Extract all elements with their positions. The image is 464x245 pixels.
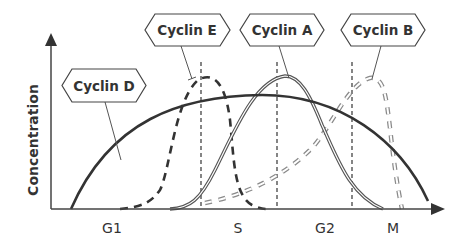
leader-cyclin-e: [181, 46, 196, 80]
cyclin-e-curve: [120, 77, 266, 209]
axes: [45, 33, 445, 215]
y-axis-label: Concentration: [25, 84, 41, 196]
cyclin-diagram: Concentration G1 S G2 M Cyclin D Cyclin …: [0, 0, 464, 245]
label-cyclin-e-text: Cyclin E: [157, 22, 217, 38]
phase-label-g2: G2: [315, 220, 335, 236]
leader-lines: [105, 46, 381, 160]
cyclin-d-curve: [71, 95, 428, 209]
phase-boundaries: [201, 62, 352, 209]
label-cyclin-d: Cyclin D: [62, 69, 146, 102]
leader-cyclin-a: [279, 46, 289, 78]
phase-label-g1: G1: [102, 220, 122, 236]
label-cyclin-b: Cyclin B: [341, 14, 425, 46]
label-cyclin-e: Cyclin E: [145, 14, 230, 46]
phase-label-s: S: [234, 220, 243, 236]
label-cyclin-a-text: Cyclin A: [252, 22, 313, 38]
y-axis-arrow-icon: [45, 33, 57, 46]
phase-label-m: M: [387, 220, 399, 236]
label-cyclin-b-text: Cyclin B: [353, 22, 414, 38]
x-axis-arrow-icon: [431, 203, 445, 215]
label-cyclin-a: Cyclin A: [240, 14, 324, 46]
leader-cyclin-b: [372, 46, 381, 79]
label-cyclin-d-text: Cyclin D: [73, 78, 134, 94]
